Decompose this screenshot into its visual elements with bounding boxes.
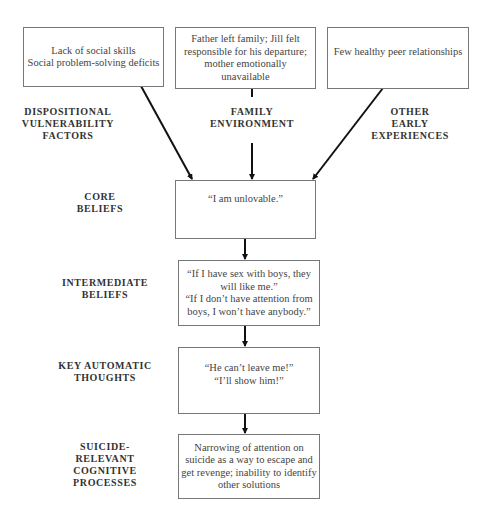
box-text-line: suicide as a way to escape and: [185, 454, 313, 467]
core-beliefs-label: CORE BELIEFS: [60, 191, 140, 215]
box-text-line: will like me.”: [220, 281, 277, 294]
label-line: INTERMEDIATE: [55, 277, 155, 289]
label-line: CORE: [60, 191, 140, 203]
box-text-line: unavailable: [221, 71, 269, 84]
key-automatic-thoughts-label: KEY AUTOMATIC THOUGHTS: [55, 360, 155, 384]
box-text-line: boys, I won’t have anybody.”: [187, 306, 310, 319]
dispositional-label: DISPOSITIONAL VULNERABILITY FACTORS: [18, 106, 118, 142]
label-line: KEY AUTOMATIC: [55, 360, 155, 372]
box-text-line: “If I don’t have attention from: [185, 293, 312, 306]
label-line: COGNITIVE: [60, 465, 150, 477]
suicide-relevant-processes-box: Narrowing of attention on suicide as a w…: [178, 434, 320, 499]
dispositional-factors-box: Lack of social skills Social problem-sol…: [23, 27, 164, 87]
box-text-line: Father left family; Jill felt: [191, 33, 299, 46]
arrow-dispositional-to-core: [141, 86, 192, 179]
box-text-line: other solutions: [218, 479, 280, 492]
label-line: ENVIRONMENT: [197, 118, 307, 130]
core-beliefs-box: “I am unlovable.”: [175, 180, 316, 239]
box-text-line: Social problem-solving deficits: [28, 57, 160, 70]
label-line: THOUGHTS: [55, 372, 155, 384]
suicide-relevant-processes-label: SUICIDE- RELEVANT COGNITIVE PROCESSES: [60, 441, 150, 489]
label-line: EXPERIENCES: [360, 130, 460, 142]
label-line: DISPOSITIONAL: [18, 106, 118, 118]
other-experiences-box: Few healthy peer relationships: [327, 27, 469, 89]
box-text-line: “I’ll show him!”: [214, 375, 283, 388]
intermediate-beliefs-label: INTERMEDIATE BELIEFS: [55, 277, 155, 301]
box-text-line: Few healthy peer relationships: [334, 46, 463, 59]
intermediate-beliefs-box: “If I have sex with boys, they will like…: [178, 260, 320, 326]
box-text-line: “I am unlovable.”: [208, 193, 283, 206]
family-environment-box: Father left family; Jill felt responsibl…: [175, 27, 316, 89]
box-text-line: responsible for his departure;: [184, 46, 307, 59]
other-experiences-label: OTHER EARLY EXPERIENCES: [360, 106, 460, 142]
box-text-line: Lack of social skills: [51, 45, 135, 58]
box-text-line: “If I have sex with boys, they: [187, 268, 311, 281]
label-line: EARLY: [360, 118, 460, 130]
box-text-line: Narrowing of attention on: [194, 442, 303, 455]
family-environment-label: FAMILY ENVIRONMENT: [197, 106, 307, 130]
label-line: RELEVANT: [60, 453, 150, 465]
label-line: VULNERABILITY: [18, 118, 118, 130]
key-automatic-thoughts-box: “He can’t leave me!” “I’ll show him!”: [178, 347, 320, 414]
box-text-line: mother emotionally: [204, 58, 287, 71]
label-line: BELIEFS: [55, 289, 155, 301]
label-line: OTHER: [360, 106, 460, 118]
box-text-line: “He can’t leave me!”: [205, 362, 294, 375]
label-line: PROCESSES: [60, 477, 150, 489]
label-line: BELIEFS: [60, 203, 140, 215]
label-line: FACTORS: [18, 130, 118, 142]
box-text-line: get revenge; inability to identify: [181, 467, 316, 480]
label-line: FAMILY: [197, 106, 307, 118]
label-line: SUICIDE-: [60, 441, 150, 453]
